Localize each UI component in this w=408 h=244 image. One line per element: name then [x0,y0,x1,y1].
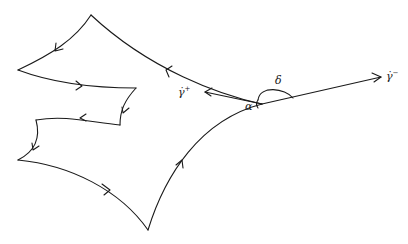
angle-arc-alpha [257,100,259,108]
curve-leftbox-down [18,120,38,160]
label-gamma-plus: γ̇+ [178,85,191,99]
curve-peak-to-left [18,15,91,70]
arrow-head-left-corner [76,81,82,90]
label-delta: δ [275,74,282,87]
curve-left-to-corner [18,70,136,88]
curve-junction-to-peak [91,15,262,104]
label-gamma-minus: γ̇− [386,69,399,83]
label-alpha: α [245,100,253,113]
diagram-canvas: γ̇+ γ̇− α δ [0,0,408,244]
tangent-gamma-plus [205,92,262,104]
curve-corner-down [120,88,136,125]
curve-bottom-to-junction [148,104,262,230]
arrow-head-gamma-plus [205,88,212,96]
curve-inner-to-leftbox [36,118,120,125]
curve-bottomleft-to-bottom [18,160,148,230]
